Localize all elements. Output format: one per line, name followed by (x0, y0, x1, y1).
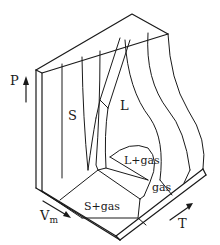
volume-axis-label: Vm (39, 208, 58, 225)
solid-region-label: S (68, 108, 77, 123)
temperature-axis-label: T (178, 216, 187, 231)
gas-region-label: gas (152, 181, 172, 194)
pvt-surface-diagram: P S L L+gas gas S+gas Vm T (0, 0, 220, 245)
pressure-axis-label: P (10, 73, 19, 88)
solid-gas-region-label: S+gas (84, 200, 120, 213)
liquid-gas-region-label: L+gas (124, 154, 160, 167)
pressure-arrow-icon (23, 76, 29, 102)
liquid-region-label: L (120, 98, 129, 113)
